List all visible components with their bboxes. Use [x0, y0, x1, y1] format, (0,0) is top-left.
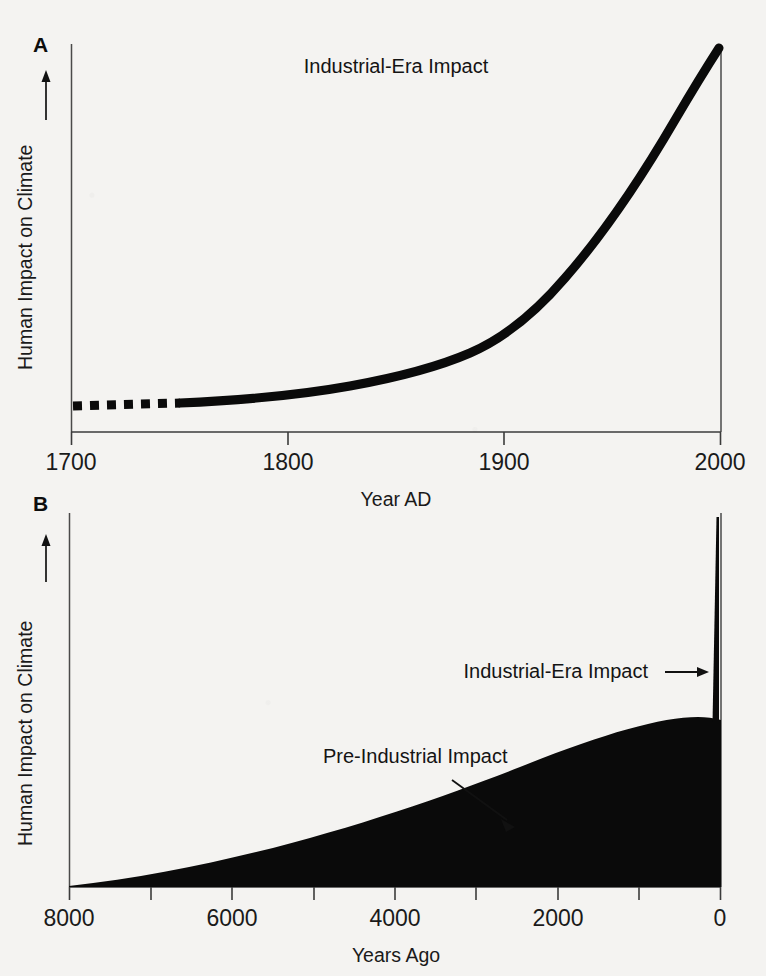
panel-b-svg: Year AD B Human Impact on Climate	[0, 486, 766, 976]
panel-a-xlabel: Year AD	[361, 488, 432, 510]
panel-b-xtick-2000: 2000	[532, 905, 583, 931]
panel-a-ylabel: Human Impact on Climate	[14, 145, 36, 370]
panel-letter-a: A	[33, 33, 48, 56]
y-direction-arrow-icon-b	[42, 534, 51, 582]
panel-b: Year AD B Human Impact on Climate	[0, 486, 766, 976]
panel-b-xlabel: Years Ago	[352, 944, 440, 966]
figure-root: A Human Impact on Climate 1700 1800	[0, 0, 766, 976]
panel-a-xtick-1700: 1700	[45, 449, 96, 475]
panel-b-xtick-0: 0	[714, 905, 727, 931]
panel-a-svg: A Human Impact on Climate 1700 1800	[0, 0, 766, 490]
panel-b-xtick-8000: 8000	[43, 905, 94, 931]
panel-a-data-curve	[73, 48, 719, 406]
panel-a-xtick-1800: 1800	[262, 449, 313, 475]
panel-b-industrial-spike	[713, 517, 720, 723]
annotation-pre-industrial-label: Pre-Industrial Impact	[323, 745, 508, 767]
panel-a: A Human Impact on Climate 1700 1800	[0, 0, 766, 490]
y-direction-arrow-icon	[42, 70, 51, 120]
panel-b-xtick-6000: 6000	[206, 905, 257, 931]
panel-b-xtick-4000: 4000	[369, 905, 420, 931]
panel-a-title-annotation: Industrial-Era Impact	[304, 55, 489, 77]
panel-a-xtick-1900: 1900	[478, 449, 529, 475]
panel-a-xtick-2000: 2000	[694, 449, 745, 475]
annotation-industrial-era-label: Industrial-Era Impact	[463, 660, 648, 682]
panel-letter-b: B	[33, 492, 48, 515]
annotation-industrial-era-arrow-icon	[665, 667, 709, 677]
panel-b-xticks	[70, 887, 721, 900]
panel-b-preindustrial-area	[69, 717, 721, 887]
panel-a-xticks	[72, 432, 721, 445]
panel-b-ylabel: Human Impact on Climate	[14, 621, 36, 846]
